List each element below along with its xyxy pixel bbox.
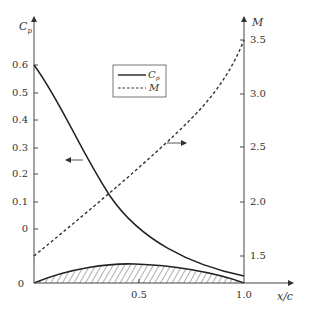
right-tick-label: 3.5 — [250, 34, 266, 45]
left-axis-title: Cp — [19, 20, 32, 35]
left-tick-label: 0.3 — [12, 142, 28, 153]
left-tick-label: 0.4 — [12, 114, 28, 125]
right-y-axis: 3.5 3.0 2.5 2.0 1.5 M — [240, 16, 266, 283]
right-tick-label: 2.5 — [250, 141, 266, 152]
left-tick-label: 0.1 — [12, 196, 28, 207]
left-tick-label: 0.6 — [12, 59, 28, 70]
x-axis-title: x/c — [277, 290, 293, 303]
x-tick-label: 0 — [18, 278, 24, 289]
x-tick-label: 1.0 — [236, 289, 252, 300]
left-y-axis: 0.6 0.5 0.4 0.3 0.2 0.1 0 Cp — [12, 17, 38, 283]
legend: Cp M — [113, 65, 166, 97]
right-tick-label: 1.5 — [250, 250, 266, 261]
right-tick-label: 2.0 — [250, 196, 266, 207]
legend-label-m: M — [148, 82, 160, 93]
left-tick-label: 0 — [22, 223, 28, 234]
left-tick-label: 0.2 — [12, 168, 28, 179]
chart: 0.6 0.5 0.4 0.3 0.2 0.1 0 Cp 3.5 3.0 2.5… — [0, 0, 310, 315]
right-axis-title: M — [251, 16, 264, 29]
right-tick-label: 3.0 — [250, 88, 266, 99]
x-tick-label: 0.5 — [131, 289, 147, 300]
left-tick-label: 0.5 — [12, 87, 28, 98]
